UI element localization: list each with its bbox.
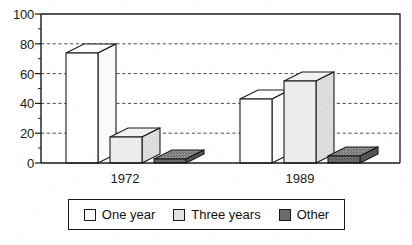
legend-item-other[interactable]: Other [279, 208, 330, 221]
chart-legend: One year Three years Other [68, 199, 345, 230]
legend-swatch-one-year [84, 209, 96, 221]
legend-label-other: Other [297, 208, 330, 221]
legend-item-three-years[interactable]: Three years [173, 208, 260, 221]
legend-swatch-other [279, 209, 291, 221]
bar-1989-three-years [284, 72, 334, 163]
legend-swatch-three-years [173, 209, 185, 221]
x-tick-label-1972: 1972 [95, 172, 155, 185]
bar-1989-other [328, 147, 378, 163]
bar-chart: 100 80 60 40 20 0 [0, 0, 412, 245]
legend-label-three-years: Three years [191, 208, 260, 221]
bar-1972-one-year [66, 44, 116, 163]
bar-1972-three-years [110, 128, 160, 163]
bar-1989-one-year [240, 90, 290, 163]
x-tick-label-1989: 1989 [270, 172, 330, 185]
legend-label-one-year: One year [102, 208, 155, 221]
bar-1972-other [154, 150, 204, 163]
legend-item-one-year[interactable]: One year [84, 208, 155, 221]
y-axis [35, 14, 41, 163]
